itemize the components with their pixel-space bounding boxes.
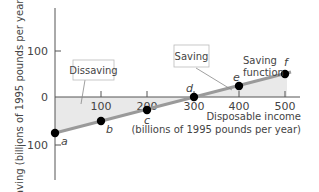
point-a: [51, 129, 59, 137]
x-axis-label: Disposable income: [206, 111, 301, 122]
saving-function-label-line1: Saving: [243, 55, 277, 66]
y-tick-label-100: 100: [27, 45, 48, 58]
point-c: [143, 106, 151, 114]
x-tick-label-300: 300: [184, 100, 205, 113]
saving-function-chart: 100 0 −100 100 200 300 400 500 a b c d e…: [0, 0, 319, 192]
dissaving-label: Dissaving: [69, 65, 117, 76]
x-axis-label-units: (billions of 1995 pounds per year): [131, 124, 301, 135]
point-label-b: b: [106, 123, 113, 136]
point-label-a: a: [61, 135, 68, 148]
point-label-f: f: [284, 56, 290, 69]
x-tick-label-100: 100: [91, 100, 112, 113]
saving-pointer: [196, 68, 232, 90]
point-b: [97, 117, 105, 125]
point-label-e: e: [233, 71, 240, 84]
y-tick-label-0: 0: [41, 91, 48, 104]
y-axis-label: Saving (billions of 1995 pounds per year…: [14, 0, 25, 192]
saving-function-label-line2: function: [243, 67, 284, 78]
saving-label: Saving: [175, 51, 209, 62]
point-label-d: d: [186, 82, 194, 95]
